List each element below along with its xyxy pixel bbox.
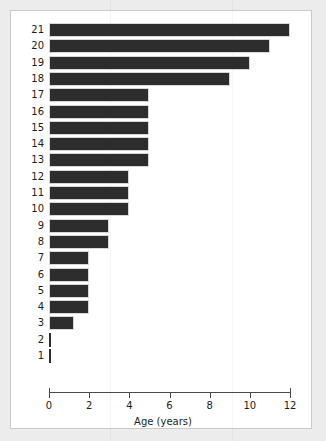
x-axis-tick xyxy=(170,393,171,398)
y-axis-tick-label: 6 xyxy=(18,269,44,281)
x-axis-tick-label: 6 xyxy=(158,400,182,412)
x-axis-end-cap xyxy=(290,388,291,392)
y-axis-tick-label: 5 xyxy=(18,285,44,297)
bar xyxy=(49,105,149,119)
bar xyxy=(49,56,250,70)
y-axis-tick-label: 16 xyxy=(18,106,44,118)
bar xyxy=(49,300,89,314)
bar xyxy=(49,251,89,265)
bar xyxy=(49,137,149,151)
x-axis-tick xyxy=(250,393,251,398)
y-axis-tick-label: 4 xyxy=(18,301,44,313)
y-axis-tick-label: 11 xyxy=(18,187,44,199)
bar xyxy=(49,186,129,200)
x-axis-end-cap xyxy=(49,388,50,392)
y-axis-tick-label: 1 xyxy=(18,350,44,362)
bar xyxy=(49,23,290,37)
x-axis-tick xyxy=(210,393,211,398)
bar xyxy=(49,121,149,135)
x-axis-tick-label: 8 xyxy=(198,400,222,412)
bar xyxy=(49,72,230,86)
y-axis-tick-label: 20 xyxy=(18,40,44,52)
y-axis-tick-label: 3 xyxy=(18,317,44,329)
x-axis-title: Age (years) xyxy=(0,416,326,428)
bar-chart-plot: 2120191817161514131211109876543210246810… xyxy=(0,0,326,441)
y-axis-tick-label: 9 xyxy=(18,220,44,232)
bar xyxy=(49,235,109,249)
x-axis-tick-label: 2 xyxy=(77,400,101,412)
x-axis-tick-label: 4 xyxy=(117,400,141,412)
bar xyxy=(49,284,89,298)
bar xyxy=(49,202,129,216)
bar xyxy=(49,170,129,184)
chart-figure: 2120191817161514131211109876543210246810… xyxy=(0,0,326,441)
x-axis-tick xyxy=(290,393,291,398)
x-axis-tick-label: 10 xyxy=(238,400,262,412)
y-axis-tick-label: 7 xyxy=(18,252,44,264)
y-axis-tick-label: 17 xyxy=(18,89,44,101)
x-axis-tick xyxy=(49,393,50,398)
bar xyxy=(49,39,270,53)
bar xyxy=(49,268,89,282)
y-axis-tick-label: 18 xyxy=(18,73,44,85)
x-axis-tick-label: 12 xyxy=(278,400,302,412)
bar xyxy=(49,316,74,330)
y-axis-tick-label: 12 xyxy=(18,171,44,183)
bar xyxy=(49,349,51,363)
bar xyxy=(49,88,149,102)
y-axis-tick-label: 15 xyxy=(18,122,44,134)
y-axis-tick-label: 14 xyxy=(18,138,44,150)
y-axis-tick-label: 2 xyxy=(18,334,44,346)
y-axis-tick-label: 21 xyxy=(18,24,44,36)
x-axis-tick-label: 0 xyxy=(37,400,61,412)
y-axis-tick-label: 8 xyxy=(18,236,44,248)
y-axis-tick-label: 10 xyxy=(18,203,44,215)
y-axis-tick-label: 19 xyxy=(18,57,44,69)
bar xyxy=(49,333,51,347)
x-axis-tick xyxy=(129,393,130,398)
x-axis-tick xyxy=(89,393,90,398)
bar xyxy=(49,219,109,233)
y-axis-tick-label: 13 xyxy=(18,154,44,166)
bar xyxy=(49,153,149,167)
